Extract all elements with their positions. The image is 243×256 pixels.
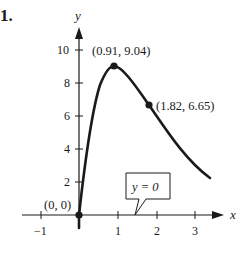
y-tick-label: 10: [57, 43, 69, 57]
origin-label: (0, 0): [44, 198, 71, 212]
inflection-point-label: (1.82, 6.65): [156, 99, 214, 113]
x-tick-label: −1: [34, 224, 47, 238]
inflection-point: [145, 101, 152, 108]
function-curve: [79, 66, 210, 228]
x-axis-arrow-icon: [212, 211, 224, 219]
origin-point: [75, 211, 82, 218]
y-tick-label: 8: [64, 76, 70, 90]
x-tick-label: 2: [154, 224, 160, 238]
y-axis: y 2 4 6 8 10: [57, 8, 83, 228]
x-tick-label: 3: [192, 224, 198, 238]
y-tick-label: 6: [64, 109, 70, 123]
y-tick-label: 4: [64, 142, 70, 156]
y-tick-label: 2: [64, 175, 70, 189]
asymptote-callout: y = 0: [126, 173, 170, 215]
asymptote-label: y = 0: [130, 180, 159, 194]
max-point-label: (0.91, 9.04): [92, 44, 150, 58]
x-axis-label: x: [229, 207, 236, 222]
y-axis-label: y: [73, 8, 81, 23]
y-axis-arrow-icon: [75, 27, 83, 39]
function-graph: x −1 1 2 3 y 2 4 6 8 10 (0, 0) (0.91, 9.…: [0, 0, 243, 256]
x-tick-label: 1: [115, 224, 121, 238]
maximum-point: [110, 62, 117, 69]
